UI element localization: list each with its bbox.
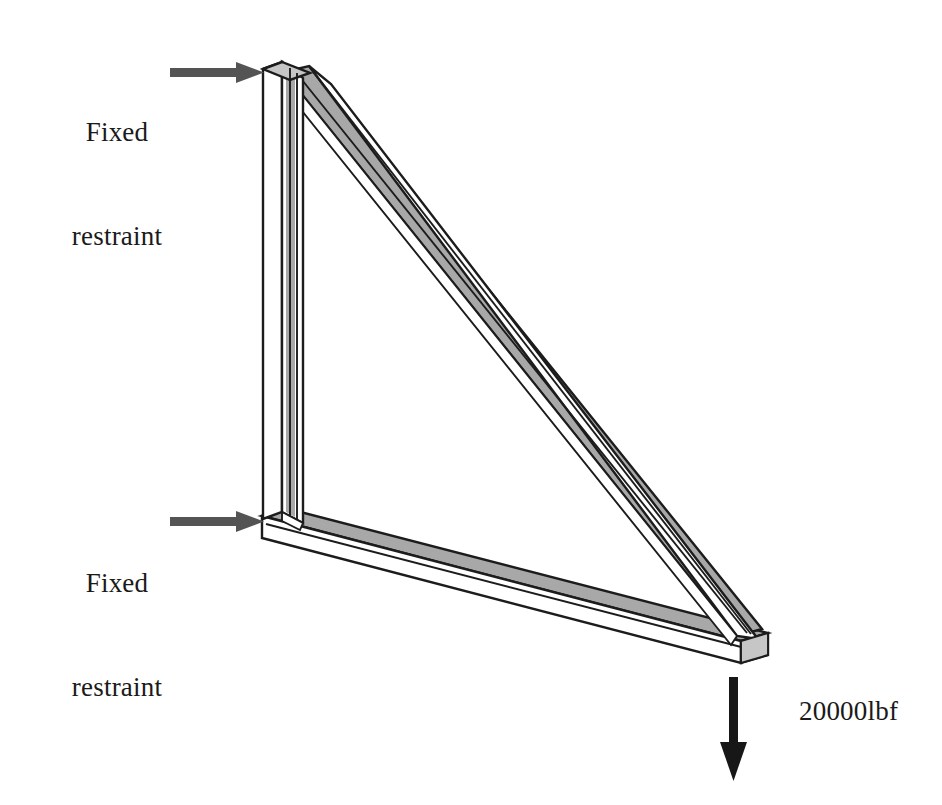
fixed-restraint-bottom-label-line2: restraint [42, 670, 192, 705]
fixed-restraint-top-label: Fixed restraint [42, 46, 192, 322]
fixed-restraint-top-label-line2: restraint [42, 219, 192, 254]
applied-load-arrow [720, 677, 747, 781]
fixed-restraint-bottom-label: Fixed restraint [42, 497, 192, 773]
vertical-beam-left-face [263, 62, 282, 519]
applied-load-label: 20000lbf [799, 694, 942, 729]
fixed-restraint-bottom-arrow-head [236, 511, 264, 532]
diagram-canvas: .edge { stroke: #1c1c1c; stroke-width: 2… [0, 0, 942, 805]
fixed-restraint-top-arrow-head [236, 62, 264, 83]
fixed-restraint-bottom-label-line1: Fixed [42, 566, 192, 601]
fixed-restraint-top-label-line1: Fixed [42, 115, 192, 150]
applied-load-arrow-head [720, 742, 747, 781]
vertical-beam [263, 62, 310, 523]
